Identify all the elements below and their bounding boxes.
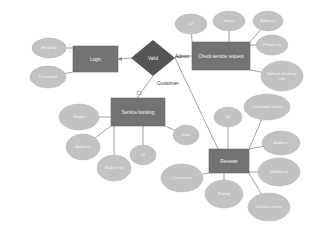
entity-login[interactable]: Login xyxy=(73,46,118,72)
entity-label: Login xyxy=(90,57,102,62)
attribute-label: Mobile no xyxy=(270,169,289,174)
attribute-address[interactable]: Address xyxy=(262,131,300,155)
attribute-label: Phone no xyxy=(263,42,282,47)
attribute-id[interactable]: Id xyxy=(175,14,207,34)
entity-label: Service booking xyxy=(122,110,155,115)
attribute-label: Password xyxy=(39,74,58,79)
attribute-label: Email id xyxy=(42,45,58,50)
attribute-name[interactable]: Name xyxy=(59,104,99,130)
attribute-label: Service name xyxy=(256,204,282,209)
er-diagram: Email idPasswordIdNameAddressPhone noVeh… xyxy=(0,0,317,240)
attribute-date[interactable]: Date xyxy=(173,125,199,145)
attribute-label: Name xyxy=(223,18,235,23)
edge-label-customer: Customer xyxy=(157,80,179,86)
attribute-id[interactable]: Id xyxy=(214,107,242,127)
relationships: Valid xyxy=(131,40,175,76)
edge-label-admin: Admin xyxy=(175,53,189,59)
attribute-email-id[interactable]: Email id xyxy=(32,38,66,58)
attribute-password[interactable]: Password xyxy=(30,66,66,88)
attribute-vehicle-booking-info[interactable]: Vehicle bookinginfo xyxy=(261,61,303,91)
attribute-customer-name[interactable]: Customer name xyxy=(244,94,290,120)
attribute-service-name[interactable]: Service name xyxy=(248,193,290,221)
attributes: Email idPasswordIdNameAddressPhone noVeh… xyxy=(30,11,303,221)
attribute-label: Mobile no xyxy=(105,165,124,170)
attribute-label: Customer name xyxy=(252,104,282,109)
entity-check[interactable]: Check service request xyxy=(192,42,250,70)
attribute-mobile-no[interactable]: Mobile no xyxy=(97,155,131,181)
attribute-comments[interactable]: Comments xyxy=(161,164,203,192)
attribute-id[interactable]: Id xyxy=(130,145,156,165)
attribute-name[interactable]: Name xyxy=(213,11,245,31)
attribute-address[interactable]: Address xyxy=(66,134,100,160)
attribute-label: Date xyxy=(182,132,192,137)
arrow-head-icon xyxy=(118,57,122,61)
attribute-label: Address xyxy=(75,144,90,149)
attribute-label: Name xyxy=(73,114,85,119)
attribute-label: Rating xyxy=(218,191,231,196)
attribute-label: Address xyxy=(273,140,288,145)
entity-label: Reviews xyxy=(220,159,238,164)
attribute-rating[interactable]: Rating xyxy=(205,180,243,208)
entity-reviews[interactable]: Reviews xyxy=(209,149,249,173)
entity-label: Check service request xyxy=(198,54,244,59)
attribute-mobile-no[interactable]: Mobile no xyxy=(258,158,300,186)
relationship-label: Valid xyxy=(148,56,158,61)
attribute-label: Address xyxy=(260,18,275,23)
attribute-label: Comments xyxy=(172,175,192,180)
attribute-address[interactable]: Address xyxy=(253,11,283,31)
relationship-valid[interactable]: Valid xyxy=(131,40,175,76)
attribute-phone-no[interactable]: Phone no xyxy=(256,35,288,55)
entity-booking[interactable]: Service booking xyxy=(111,98,165,126)
